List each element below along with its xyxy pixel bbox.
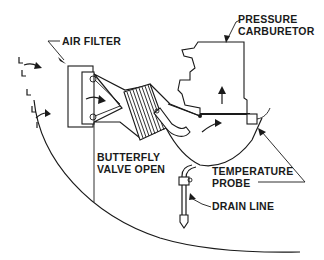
drain-line-leader: [191, 198, 211, 207]
ram-air-marks: [19, 57, 37, 128]
label-temperature-probe-line1: TEMPERATURE: [212, 165, 293, 177]
label-pressure-carburetor-line2: CARBURETOR: [238, 25, 314, 37]
label-temperature-probe: TEMPERATURE PROBE: [212, 165, 293, 189]
label-butterfly-valve: BUTTERFLY VALVE OPEN: [97, 151, 165, 175]
label-butterfly-line1: BUTTERFLY: [97, 151, 165, 163]
temperature-probe-body: [247, 114, 257, 124]
label-butterfly-line2: VALVE OPEN: [97, 163, 165, 175]
duct-airflow-arrow-icon: [215, 119, 222, 127]
label-pressure-carburetor-line1: PRESSURE: [238, 13, 314, 25]
induction-diagram: AIR FILTER PRESSURE CARBURETOR BUTTERFLY…: [0, 0, 324, 260]
label-drain-line: DRAIN LINE: [212, 200, 274, 212]
temperature-probe-wire: [257, 108, 270, 119]
label-temperature-probe-line2: PROBE: [212, 177, 293, 189]
pressure-carburetor-body: [178, 42, 247, 114]
airflow-arrow-icons: [24, 62, 51, 118]
diagram-canvas: [0, 0, 324, 260]
label-air-filter: AIR FILTER: [62, 35, 121, 47]
label-pressure-carburetor: PRESSURE CARBURETOR: [238, 13, 314, 37]
filter-airflow-arrow-icon: [98, 95, 106, 104]
